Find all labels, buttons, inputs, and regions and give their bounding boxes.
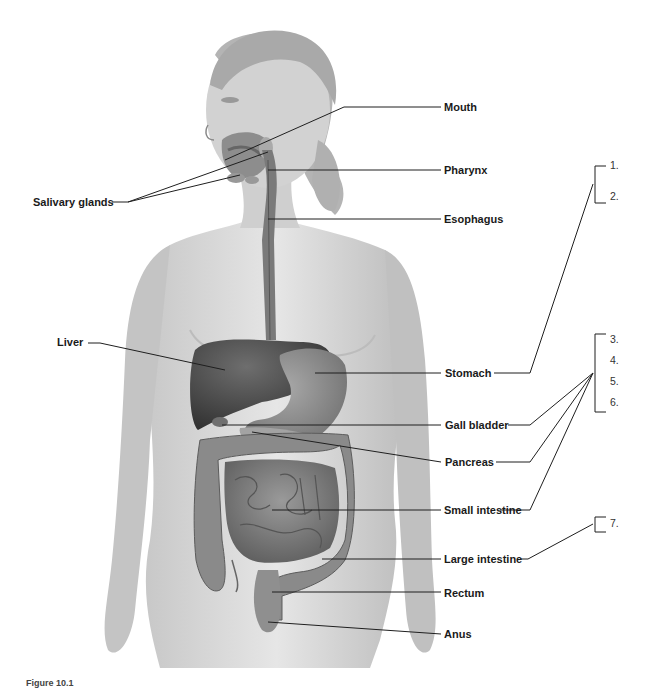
- label-pancreas: Pancreas: [445, 456, 494, 468]
- blank-4: 4.: [610, 354, 619, 366]
- blank-6: 6.: [610, 396, 619, 408]
- blank-5: 5.: [610, 375, 619, 387]
- label-large-intestine: Large intestine: [444, 553, 522, 565]
- label-stomach: Stomach: [445, 367, 491, 379]
- label-gall-bladder: Gall bladder: [445, 419, 509, 431]
- label-salivary-glands: Salivary glands: [33, 196, 114, 208]
- label-liver: Liver: [57, 336, 83, 348]
- label-rectum: Rectum: [444, 587, 484, 599]
- blank-1: 1.: [610, 159, 619, 171]
- figure-caption: Figure 10.1: [26, 678, 74, 688]
- blank-2: 2.: [610, 190, 619, 202]
- label-small-intestine: Small intestine: [444, 504, 522, 516]
- label-mouth: Mouth: [444, 101, 477, 113]
- anatomy-illustration: [0, 0, 650, 690]
- digestive-system-figure: Mouth Salivary glands Pharynx Esophagus …: [0, 0, 650, 690]
- label-esophagus: Esophagus: [444, 213, 503, 225]
- label-pharynx: Pharynx: [444, 164, 487, 176]
- blank-7: 7.: [610, 517, 619, 529]
- label-anus: Anus: [444, 628, 472, 640]
- blank-3: 3.: [610, 333, 619, 345]
